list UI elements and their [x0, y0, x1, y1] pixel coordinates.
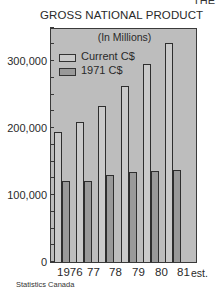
bar-1971-80: [151, 171, 159, 262]
bar-current-77: [76, 122, 84, 262]
y-tick-mark: [50, 127, 54, 128]
bar-1971-77: [84, 181, 92, 262]
y-tick-mark: [50, 43, 54, 44]
x-label-1976: 1976: [57, 266, 83, 278]
legend-label-current: Current C$: [81, 50, 135, 62]
y-tick-mark: [50, 110, 54, 111]
source-note: Statistics Canada: [16, 280, 74, 289]
y-tick-label-100000: 100,000: [7, 189, 47, 201]
legend-swatch-1971: [59, 68, 76, 76]
legend-label-1971: 1971 C$: [81, 64, 123, 76]
y-tick-mark: [50, 60, 54, 61]
y-tick-label-0: 0: [41, 256, 47, 268]
chart-subtitle: (In Millions): [51, 31, 198, 43]
bar-1971-79: [129, 172, 137, 262]
bar-current-78: [98, 106, 106, 262]
bar-current-81est: [165, 43, 173, 262]
bar-1971-81est: [173, 170, 181, 262]
y-tick-mark: [50, 94, 54, 95]
bar-1971-1976: [62, 181, 70, 262]
bar-current-80: [143, 64, 151, 262]
x-label-est: est.: [191, 267, 208, 279]
x-label-79: 79: [132, 266, 145, 278]
y-tick-mark: [50, 27, 54, 28]
plot-area: (In Millions) Current C$ 1971 C$: [50, 28, 197, 263]
x-label-81: 81: [177, 266, 190, 278]
y-tick-mark: [50, 77, 54, 78]
y-tick-label-200000: 200,000: [7, 122, 47, 134]
page-corner-text: THE: [193, 0, 215, 6]
bar-current-79: [121, 86, 129, 262]
legend-swatch-current: [59, 54, 76, 62]
x-label-77: 77: [87, 266, 100, 278]
chart-title: GROSS NATIONAL PRODUCT: [40, 9, 217, 21]
x-label-78: 78: [109, 266, 122, 278]
y-tick-label-300000: 300,000: [7, 55, 47, 67]
bar-current-1976: [54, 132, 62, 262]
x-label-80: 80: [155, 266, 168, 278]
bar-1971-78: [106, 175, 114, 262]
